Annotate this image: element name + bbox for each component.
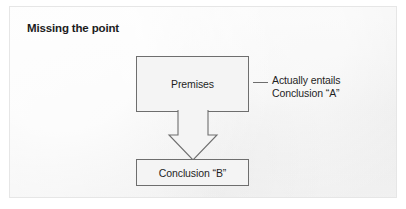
page-title: Missing the point (27, 22, 119, 34)
annotation-leader-line (253, 82, 268, 83)
node-conclusion-b-label: Conclusion “B” (159, 167, 226, 179)
node-conclusion-b: Conclusion “B” (136, 159, 249, 186)
diagram-screenshot: Missing the point Premises Conclusion “B… (0, 0, 406, 209)
annotation-actually-entails: Actually entails Conclusion “A” (272, 74, 340, 100)
node-premises: Premises (136, 56, 249, 112)
block-arrow-down-icon (168, 110, 218, 162)
node-premises-label: Premises (171, 78, 214, 90)
annotation-line-2: Conclusion “A” (272, 87, 340, 100)
annotation-line-1: Actually entails (272, 74, 340, 87)
